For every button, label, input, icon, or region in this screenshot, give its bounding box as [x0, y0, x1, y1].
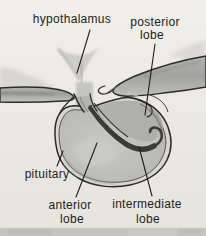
label-posterior-lobe-line2: lobe — [140, 29, 164, 41]
bottom-edge-strip — [0, 228, 206, 236]
anterior-lobe-highlight — [73, 138, 117, 166]
label-intermediate-lobe-line2: lobe — [136, 213, 160, 225]
anatomy-figure: hypothalamus posterior lobe pituitary an… — [0, 0, 206, 236]
label-anterior-lobe-line2: lobe — [60, 213, 84, 225]
label-intermediate-lobe-line1: intermediate — [112, 198, 182, 210]
label-hypothalamus: hypothalamus — [33, 13, 111, 25]
label-pituitary: pituitary — [25, 168, 70, 180]
label-anterior-lobe-line1: anterior — [48, 199, 91, 211]
label-posterior-lobe-line1: posterior — [130, 16, 179, 28]
